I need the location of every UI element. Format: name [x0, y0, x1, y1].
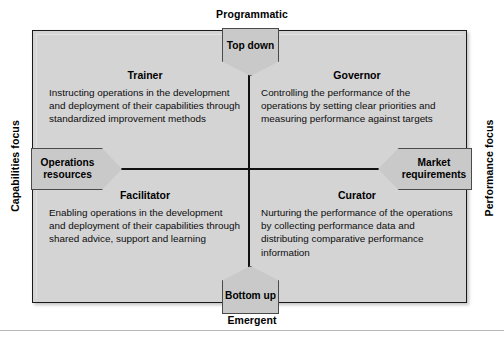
- quadrant-trainer-title: Trainer: [49, 69, 241, 81]
- axis-label-right: Performance focus: [483, 103, 495, 233]
- axis-label-top: Programmatic: [0, 8, 504, 20]
- quadrant-curator-title: Curator: [261, 189, 453, 201]
- quadrant-trainer: Trainer Instructing operations in the de…: [49, 69, 241, 126]
- axis-label-left: Capabilities focus: [9, 101, 21, 231]
- quadrant-governor-title: Governor: [261, 69, 453, 81]
- quadrant-trainer-body: Instructing operations in the developmen…: [49, 86, 241, 126]
- axis-label-bottom: Emergent: [0, 314, 504, 326]
- quadrant-facilitator: Facilitator Enabling operations in the d…: [49, 189, 241, 246]
- quadrant-curator-body: Nurturing the performance of the operati…: [261, 206, 453, 259]
- quadrant-facilitator-title: Facilitator: [49, 189, 241, 201]
- quadrant-governor: Governor Controlling the performance of …: [261, 69, 453, 126]
- bottom-divider: [0, 330, 504, 331]
- quadrant-facilitator-body: Enabling operations in the development a…: [49, 206, 241, 246]
- quadrant-curator: Curator Nurturing the performance of the…: [261, 189, 453, 259]
- quadrant-governor-body: Controlling the performance of the opera…: [261, 86, 453, 126]
